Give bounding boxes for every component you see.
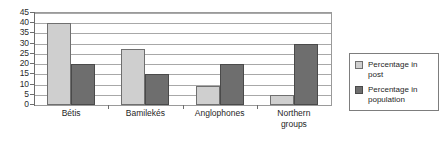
y-axis-tick-label: 30 <box>20 38 34 48</box>
bar <box>294 44 318 105</box>
legend-swatch-icon-population <box>355 86 363 94</box>
plot-wrapper: 454035302520151050 BétisBamilekésAngloph… <box>0 0 340 130</box>
y-axis-line <box>34 12 35 106</box>
y-axis-tick-label: 20 <box>20 58 34 68</box>
bar-group <box>108 13 182 105</box>
bar <box>270 95 294 105</box>
bar <box>196 86 220 105</box>
x-axis-label: Anglophones <box>183 108 257 119</box>
chart-legend: Percentage inpost Percentage inpopulatio… <box>349 53 439 111</box>
y-axis-tick-label: 15 <box>20 68 34 78</box>
bar <box>121 49 145 105</box>
y-axis-tick-label: 5 <box>24 89 34 99</box>
x-axis-label: Northerngroups <box>257 108 331 129</box>
y-axis-tick-label: 40 <box>20 17 34 27</box>
x-axis-label: Bamilekés <box>108 108 182 119</box>
legend-label-population: Percentage inpopulation <box>368 85 417 104</box>
x-axis-labels: BétisBamilekésAnglophonesNortherngroups <box>34 108 332 138</box>
bar-chart: 454035302520151050 BétisBamilekésAngloph… <box>0 0 448 162</box>
bar <box>145 74 169 105</box>
legend-item-percentage-in-post: Percentage inpost <box>355 60 433 79</box>
bar <box>47 23 71 105</box>
plot-area <box>34 12 332 106</box>
bar <box>220 64 244 105</box>
bars-layer <box>34 13 331 105</box>
legend-swatch-icon-post <box>355 61 363 69</box>
legend-item-percentage-in-population: Percentage inpopulation <box>355 85 433 104</box>
y-axis: 454035302520151050 <box>0 12 34 106</box>
bar <box>71 64 95 105</box>
y-axis-tick-label: 0 <box>24 99 34 109</box>
legend-label-post: Percentage inpost <box>368 60 417 79</box>
bar-group <box>34 13 108 105</box>
x-axis-label: Bétis <box>34 108 108 119</box>
bar-group <box>183 13 257 105</box>
y-axis-tick-label: 25 <box>20 48 34 58</box>
y-axis-tick-label: 35 <box>20 27 34 37</box>
bar-group <box>257 13 331 105</box>
y-axis-tick-label: 45 <box>20 7 34 17</box>
y-axis-tick-label: 10 <box>20 79 34 89</box>
